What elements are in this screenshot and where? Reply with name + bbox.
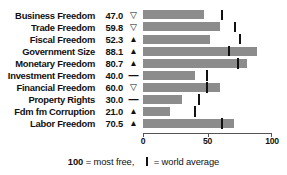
- row-plot: [143, 45, 272, 57]
- row-label: Government Size: [22, 46, 95, 57]
- row-label: Labor Freedom: [30, 118, 95, 129]
- chart-row: Fiscal Freedom52.3▲: [0, 33, 287, 45]
- trend-flat-icon: —: [128, 94, 139, 105]
- world-average-marker: [194, 106, 196, 117]
- value-bar: [143, 59, 247, 68]
- row-value: 59.8: [99, 22, 123, 33]
- row-label: Business Freedom: [15, 10, 95, 21]
- row-label: Investment Freedom: [8, 70, 95, 81]
- chart-row: Financial Freedom60.0▽: [0, 82, 287, 94]
- row-label: Fdm fm Corruption: [14, 106, 95, 117]
- freedom-index-chart: Business Freedom47.0▽Trade Freedom59.8▽F…: [0, 0, 287, 175]
- chart-row: Property Rights30.0—: [0, 94, 287, 106]
- row-label: Fiscal Freedom: [30, 34, 95, 45]
- value-bar: [143, 119, 234, 128]
- row-plot: [143, 118, 272, 130]
- chart-rows: Business Freedom47.0▽Trade Freedom59.8▽F…: [0, 9, 287, 130]
- row-label: Property Rights: [28, 94, 95, 105]
- axis-tick-label: 100: [265, 136, 279, 146]
- world-average-marker: [237, 58, 239, 69]
- chart-row: Fdm fm Corruption21.0▲: [0, 106, 287, 118]
- row-plot: [143, 94, 272, 106]
- scale-note-value: 100: [68, 156, 83, 167]
- trend-up-filled-icon: ▲: [128, 106, 139, 117]
- row-plot: [143, 9, 272, 21]
- chart-title: [4, 0, 284, 2]
- row-plot: [143, 57, 272, 69]
- row-value: 88.1: [99, 46, 123, 57]
- world-average-marker: [228, 46, 230, 57]
- row-value: 80.7: [99, 58, 123, 69]
- value-bar: [143, 47, 257, 56]
- row-plot: [143, 106, 272, 118]
- world-average-marker: [239, 34, 241, 45]
- value-bar: [143, 71, 195, 80]
- world-average-marker: [206, 70, 208, 81]
- trend-flat-icon: —: [128, 70, 139, 81]
- row-value: 60.0: [99, 82, 123, 93]
- chart-row: Government Size88.1▲: [0, 45, 287, 57]
- world-average-marker: [198, 94, 200, 105]
- chart-row: Investment Freedom40.0—: [0, 69, 287, 81]
- value-bar: [143, 83, 220, 92]
- chart-footer-legend: 100 = most free, = world average: [0, 156, 287, 167]
- row-label: Trade Freedom: [31, 22, 95, 33]
- world-average-marker: [221, 118, 223, 129]
- chart-row: Business Freedom47.0▽: [0, 9, 287, 21]
- row-value: 70.5: [99, 118, 123, 129]
- row-value: 40.0: [99, 70, 123, 81]
- scale-note-text: = most free,: [83, 156, 134, 167]
- world-average-marker: [206, 82, 208, 93]
- axis-tick-label: 50: [203, 136, 212, 146]
- value-bar: [143, 107, 170, 116]
- value-bar: [143, 22, 220, 31]
- trend-up-filled-icon: ▲: [128, 118, 139, 129]
- row-value: 21.0: [99, 106, 123, 117]
- row-plot: [143, 82, 272, 94]
- trend-down-open-icon: ▽: [128, 82, 139, 93]
- trend-up-filled-icon: ▲: [128, 34, 139, 45]
- world-average-legend-icon: [146, 157, 148, 166]
- legend-text: = world average: [151, 156, 219, 167]
- trend-down-open-icon: ▽: [128, 10, 139, 21]
- row-label: Monetary Freedom: [15, 58, 95, 69]
- value-bar: [143, 10, 204, 19]
- axis-tick-label: 0: [141, 136, 146, 146]
- world-average-marker: [234, 22, 236, 33]
- row-value: 52.3: [99, 34, 123, 45]
- trend-up-filled-icon: ▲: [128, 46, 139, 57]
- row-value: 30.0: [99, 94, 123, 105]
- chart-row: Monetary Freedom80.7▲: [0, 57, 287, 69]
- row-plot: [143, 33, 272, 45]
- trend-down-open-icon: ▽: [128, 22, 139, 33]
- trend-up-filled-icon: ▲: [128, 58, 139, 69]
- row-label: Financial Freedom: [16, 82, 95, 93]
- row-value: 47.0: [99, 10, 123, 21]
- chart-row: Trade Freedom59.8▽: [0, 21, 287, 33]
- world-average-marker: [221, 10, 223, 21]
- value-bar: [143, 95, 182, 104]
- row-plot: [143, 21, 272, 33]
- value-bar: [143, 35, 210, 44]
- row-plot: [143, 69, 272, 81]
- chart-row: Labor Freedom70.5▲: [0, 118, 287, 130]
